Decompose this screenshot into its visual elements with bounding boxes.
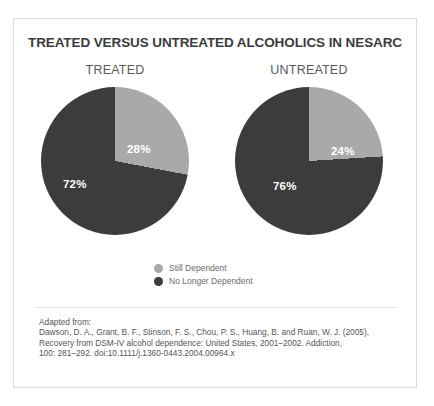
pie-treated-graphic — [41, 87, 189, 235]
citation-block: Adapted from: Dawson, D. A., Grant, B. F… — [39, 317, 399, 359]
pie-chart-untreated: 24% 76% — [235, 87, 383, 235]
legend-label-no-longer-dependent: No Longer Dependent — [169, 276, 253, 286]
pie-panel-untreated: UNTREATED 24% 76% — [214, 63, 404, 235]
legend-label-still-dependent: Still Dependent — [169, 263, 227, 273]
legend-swatch-still-dependent-icon — [154, 264, 163, 273]
legend-item-still-dependent: Still Dependent — [154, 263, 276, 273]
citation-line: Recovery from DSM-IV alcohol dependence:… — [39, 338, 399, 348]
slice-label-treated-no-longer-dependent: 72% — [63, 178, 87, 190]
citation-line: Adapted from: — [39, 317, 399, 327]
pie-panel-treated: TREATED 28% 72% — [20, 63, 210, 235]
citation-line: 100: 281–292. doi:10.1111/j.1360-0443.20… — [39, 348, 399, 358]
pie-untreated-graphic — [235, 87, 383, 235]
figure-frame: TREATED VERSUS UNTREATED ALCOHOLICS IN N… — [13, 18, 417, 388]
legend-item-no-longer-dependent: No Longer Dependent — [154, 276, 276, 286]
panel-label-untreated: UNTREATED — [214, 63, 404, 77]
legend-swatch-no-longer-dependent-icon — [154, 277, 163, 286]
slice-label-untreated-still-dependent: 24% — [331, 145, 355, 157]
chart-legend: Still Dependent No Longer Dependent — [14, 263, 416, 286]
panel-label-treated: TREATED — [20, 63, 210, 77]
citation-line: Dawson, D. A., Grant, B. F., Stinson, F.… — [39, 327, 399, 337]
pie-chart-treated: 28% 72% — [41, 87, 189, 235]
chart-title: TREATED VERSUS UNTREATED ALCOHOLICS IN N… — [14, 35, 416, 50]
slice-label-treated-still-dependent: 28% — [127, 143, 151, 155]
citation-divider — [36, 307, 396, 308]
slice-label-untreated-no-longer-dependent: 76% — [273, 180, 297, 192]
